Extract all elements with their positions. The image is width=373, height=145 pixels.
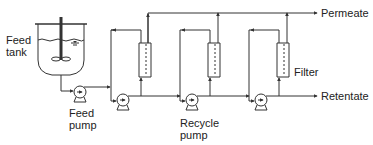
permeate-label: Permeate — [321, 7, 369, 19]
feed-pump-label-line2: pump — [69, 119, 93, 131]
recycle-pump-1-icon — [117, 94, 129, 110]
filter-1-icon — [139, 43, 151, 77]
retentate-label: Retentate — [321, 90, 369, 102]
filter-2-icon — [208, 43, 220, 77]
stage-2 — [178, 30, 248, 110]
recycle-pump-label: Recycle pump — [180, 117, 219, 141]
filter-3-icon — [277, 43, 289, 77]
permeate-line — [148, 13, 317, 43]
tank-outlet-line — [61, 75, 73, 91]
recycle-pump-3-icon — [255, 94, 267, 110]
filter-label: Filter — [294, 66, 318, 78]
feed-tank-label-line2: tank — [6, 46, 31, 58]
recycle-pump-label-line2: pump — [180, 129, 219, 141]
feed-tank-label: Feed tank — [6, 34, 31, 58]
feed-pump-label: Feed pump — [69, 107, 93, 131]
recycle-pump-label-line1: Recycle — [180, 117, 219, 129]
recycle-pump-2-icon — [186, 94, 198, 110]
feed-pump-label-line1: Feed — [69, 107, 93, 119]
stage-1 — [111, 30, 179, 110]
feed-pump-icon — [74, 86, 86, 102]
feed-tank-label-line1: Feed — [6, 34, 31, 46]
